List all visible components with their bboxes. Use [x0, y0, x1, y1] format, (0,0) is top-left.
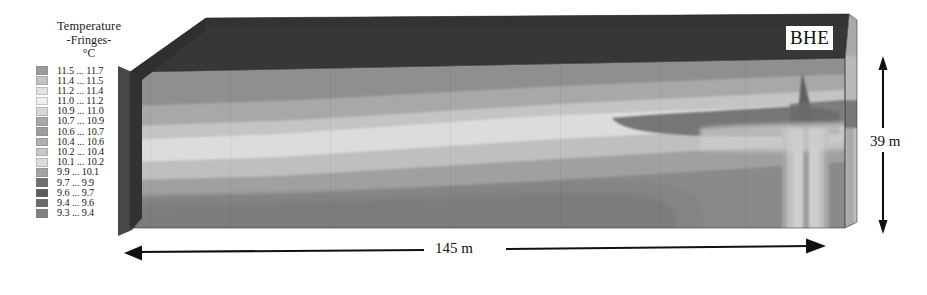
legend-entry-label: 9.3 ... 9.4 [57, 208, 94, 218]
figure-root: Temperature -Fringes- °C 11.5 ... 11.711… [0, 0, 927, 295]
height-dimension-label: 39 m [869, 133, 901, 149]
legend-swatch [36, 189, 48, 198]
legend: Temperature -Fringes- °C 11.5 ... 11.711… [34, 20, 144, 218]
block-right-face [840, 10, 864, 235]
legend-subtitle: -Fringes- [34, 34, 144, 48]
legend-swatch [36, 158, 48, 167]
legend-swatch [36, 138, 48, 147]
legend-unit: °C [34, 47, 144, 61]
legend-entry: 9.3 ... 9.4 [34, 208, 144, 218]
legend-swatch [36, 168, 48, 177]
legend-swatch [36, 199, 48, 208]
legend-swatch [36, 127, 48, 136]
width-dimension-label: 145 m [430, 240, 478, 256]
legend-swatch [36, 209, 48, 218]
legend-swatch [36, 178, 48, 187]
legend-swatch [36, 66, 48, 75]
block-front-face [120, 50, 860, 240]
legend-swatch [36, 117, 48, 126]
bhe-label: BHE [786, 26, 833, 50]
legend-title: Temperature [34, 20, 144, 34]
block-edges [130, 14, 857, 228]
legend-swatch [36, 148, 48, 157]
legend-swatch [36, 107, 48, 116]
legend-swatch [36, 87, 48, 96]
block-top-face [120, 8, 865, 78]
legend-swatch [36, 76, 48, 85]
legend-entry-list: 11.5 ... 11.711.4 ... 11.511.2 ... 11.41… [34, 66, 144, 219]
legend-swatch [36, 97, 48, 106]
